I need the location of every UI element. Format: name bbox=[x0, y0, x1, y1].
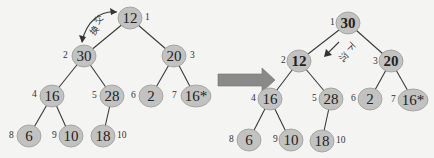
node-value: 20 bbox=[384, 53, 399, 69]
node-index: 10 bbox=[336, 135, 346, 145]
node-value: 6 bbox=[245, 132, 253, 148]
node-value: 16* bbox=[402, 92, 425, 108]
node-index: 1 bbox=[145, 12, 150, 22]
heap-node: 16* 7 bbox=[172, 85, 211, 107]
node-value: 28 bbox=[324, 91, 339, 107]
node-index: 5 bbox=[312, 93, 317, 103]
heap-node: 16 4 bbox=[251, 88, 282, 110]
heap-node: 20 3 bbox=[162, 45, 195, 67]
node-index: 2 bbox=[63, 50, 68, 60]
heap-node: 6 8 bbox=[229, 129, 261, 151]
heap-node: 20 3 bbox=[373, 50, 403, 72]
node-value: 20 bbox=[167, 48, 182, 64]
heap-node: 18 10 bbox=[91, 125, 127, 147]
heap-node: 30 1 bbox=[330, 12, 360, 34]
heap-node: 12 2 bbox=[281, 50, 311, 72]
heap-node: 10 9 bbox=[273, 129, 303, 151]
heap-node: 28 5 bbox=[312, 88, 343, 110]
node-index: 2 bbox=[281, 55, 286, 65]
node-index: 3 bbox=[190, 50, 195, 60]
node-index: 1 bbox=[330, 17, 335, 27]
sink-label-2: 沉 bbox=[337, 50, 350, 63]
node-index: 4 bbox=[32, 89, 37, 99]
node-index: 9 bbox=[273, 134, 278, 144]
tree-before: 交 换 12 1 30 2 20 3 16 4 28 5 bbox=[9, 7, 211, 147]
heap-node: 12 1 bbox=[118, 7, 150, 29]
node-index: 9 bbox=[52, 130, 57, 140]
node-value: 6 bbox=[25, 128, 33, 144]
node-value: 16 bbox=[45, 88, 61, 104]
heap-node: 10 9 bbox=[52, 125, 83, 147]
node-index: 3 bbox=[373, 56, 378, 66]
node-index: 7 bbox=[391, 94, 396, 104]
heap-node: 28 5 bbox=[92, 85, 124, 107]
node-index: 5 bbox=[92, 90, 97, 100]
heap-node: 16* 7 bbox=[391, 89, 428, 111]
node-value: 30 bbox=[77, 48, 92, 64]
node-value: 30 bbox=[341, 15, 356, 31]
node-index: 8 bbox=[229, 134, 234, 144]
node-value: 2 bbox=[366, 91, 374, 107]
node-value: 12 bbox=[292, 53, 307, 69]
arrowhead-icon bbox=[110, 8, 117, 15]
node-value: 10 bbox=[64, 128, 79, 144]
node-value: 2 bbox=[147, 88, 155, 104]
node-index: 4 bbox=[251, 93, 256, 103]
node-value: 12 bbox=[123, 10, 138, 26]
node-value: 10 bbox=[284, 132, 299, 148]
heap-node: 6 8 bbox=[9, 125, 41, 147]
heap-node: 2 6 bbox=[131, 85, 163, 107]
node-value: 16 bbox=[263, 91, 279, 107]
node-value: 16* bbox=[185, 88, 208, 104]
heap-node: 18 10 bbox=[310, 130, 346, 152]
node-index: 8 bbox=[9, 130, 14, 140]
node-value: 28 bbox=[105, 88, 120, 104]
heap-node: 16 4 bbox=[32, 85, 64, 107]
arrowhead-icon bbox=[79, 35, 86, 43]
node-index: 6 bbox=[131, 90, 136, 100]
heap-diagram: 交 换 12 1 30 2 20 3 16 4 28 5 bbox=[0, 0, 434, 158]
node-index: 6 bbox=[351, 93, 356, 103]
heap-node: 30 2 bbox=[63, 45, 96, 67]
heap-node: 2 6 bbox=[351, 88, 382, 110]
node-index: 10 bbox=[117, 130, 127, 140]
node-value: 18 bbox=[96, 128, 111, 144]
node-value: 18 bbox=[315, 133, 330, 149]
node-index: 7 bbox=[172, 90, 177, 100]
